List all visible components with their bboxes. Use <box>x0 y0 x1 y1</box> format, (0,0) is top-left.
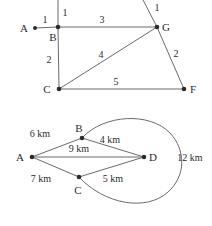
node-label-G-top: G <box>162 21 170 33</box>
node-B-bottom <box>80 136 85 141</box>
node-C-bottom <box>77 175 82 180</box>
edge-weight-B-G: 3 <box>100 14 105 25</box>
edge-B-C <box>58 27 59 89</box>
bottom-distance-diagram: A B C D 6 km 4 km 9 km 7 km 5 km 12 km <box>16 119 203 204</box>
edge-weight-B-upward: 1 <box>63 7 68 18</box>
node-B-top <box>56 25 61 30</box>
node-label-B-top: B <box>49 31 56 43</box>
edge-weight-B-C: 2 <box>47 54 52 65</box>
diagrams-svg: A B C G F 1 3 2 4 5 2 1 1 <box>0 0 212 226</box>
edge-weight-C-F: 5 <box>114 76 119 87</box>
edge-weight-G-F: 2 <box>174 48 179 59</box>
node-label-A-top: A <box>20 22 28 34</box>
node-label-B-bottom: B <box>75 122 82 134</box>
node-label-C-bottom: C <box>74 184 81 196</box>
node-label-F-top: F <box>190 83 196 95</box>
edge-weight-A-B: 1 <box>43 14 48 25</box>
edge-distance-A-C: 7 km <box>31 173 52 184</box>
edge-distance-B-D: 4 km <box>100 134 121 145</box>
arc-distance-B-C: 12 km <box>177 152 203 163</box>
node-C-top <box>57 87 62 92</box>
node-label-A-bottom: A <box>16 151 24 163</box>
edge-G-F <box>157 27 184 89</box>
edge-distance-C-D: 5 km <box>103 173 124 184</box>
node-G-top <box>155 25 160 30</box>
node-D-bottom <box>142 155 147 160</box>
node-A-top <box>33 26 37 30</box>
edge-A-B <box>35 27 58 28</box>
edge-distance-A-D: 9 km <box>69 143 90 154</box>
edge-distance-A-B: 6 km <box>30 128 51 139</box>
node-label-C-top: C <box>43 83 50 95</box>
edge-C-G <box>59 27 157 89</box>
diagram-canvas: A B C G F 1 3 2 4 5 2 1 1 <box>0 0 212 226</box>
node-F-top <box>182 87 187 92</box>
node-label-D-bottom: D <box>149 151 157 163</box>
edge-weight-C-G: 4 <box>99 49 104 60</box>
top-network-diagram: A B C G F 1 3 2 4 5 2 1 1 <box>20 0 196 95</box>
node-A-bottom <box>30 155 35 160</box>
edge-weight-G-upleft: 1 <box>155 2 160 13</box>
